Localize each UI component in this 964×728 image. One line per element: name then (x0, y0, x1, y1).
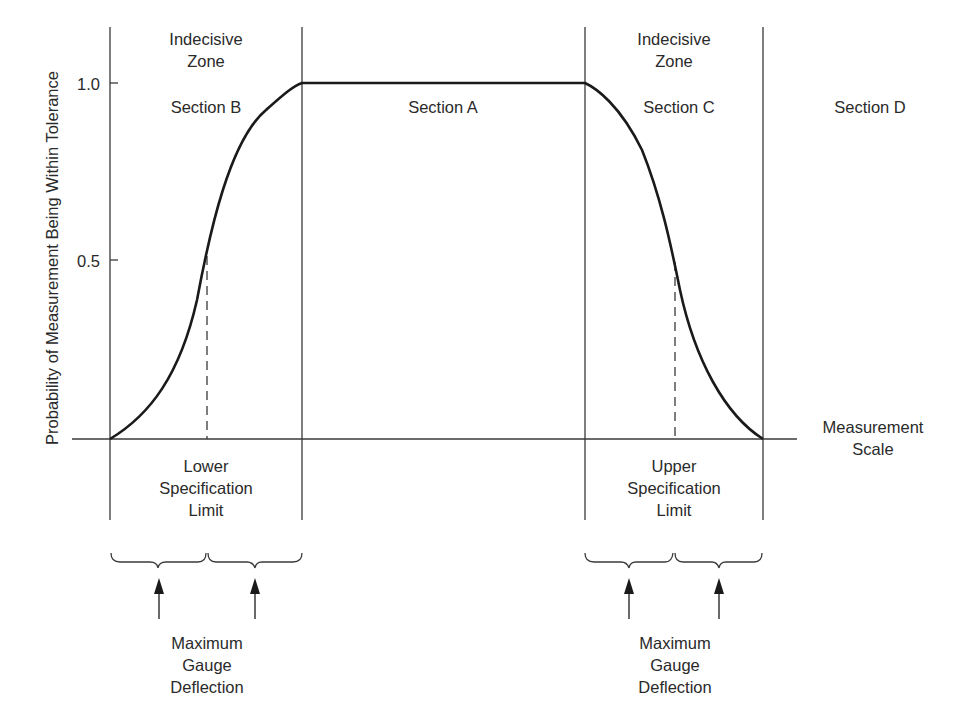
lower-spec-limit-label: Lower Specification Limit (159, 455, 253, 521)
upper-spec-limit-label: Upper Specification Limit (627, 455, 721, 521)
y-axis-label: Probability of Measurement Being Within … (43, 71, 62, 445)
brace-left-2 (208, 553, 302, 568)
indecisive-zone-left-label: Indecisive Zone (169, 28, 242, 72)
arrow-up-icon (154, 578, 164, 619)
brace-right-2 (675, 553, 762, 568)
brace-right-1 (585, 553, 673, 568)
brace-left-1 (111, 553, 206, 568)
tick-label-1-0: 1.0 (77, 75, 100, 94)
diagram-canvas (0, 0, 964, 728)
section-d-label: Section D (834, 96, 906, 118)
section-a-label: Section A (408, 96, 478, 118)
probability-curve (110, 83, 763, 439)
arrow-up-icon (250, 578, 260, 619)
max-gauge-deflection-right-label: Maximum Gauge Deflection (638, 632, 711, 698)
max-gauge-deflection-left-label: Maximum Gauge Deflection (170, 632, 243, 698)
tick-label-0-5: 0.5 (77, 252, 100, 271)
gauge-probability-diagram: Probability of Measurement Being Within … (0, 0, 964, 728)
arrow-up-icon (624, 578, 634, 619)
measurement-scale-label: Measurement Scale (823, 416, 924, 460)
arrow-up-icon (714, 578, 724, 619)
indecisive-zone-right-label: Indecisive Zone (637, 28, 710, 72)
section-c-label: Section C (643, 96, 715, 118)
section-b-label: Section B (171, 96, 242, 118)
